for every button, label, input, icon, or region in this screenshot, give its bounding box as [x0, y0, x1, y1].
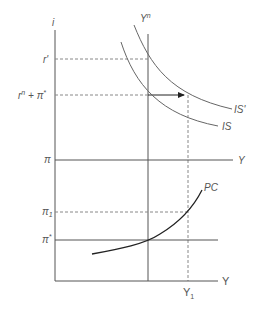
rn-pistar-label: rn + π*: [18, 89, 46, 101]
i-axis-label: i: [52, 17, 55, 28]
is-label: IS: [222, 121, 232, 132]
bottom-y-axis-label: Y: [222, 275, 230, 287]
is-pc-diagram: i Yn r' rn + π* IS' IS π Y π1 π* PC Y Y1: [0, 0, 261, 309]
y1-label: Y1: [183, 286, 194, 300]
yn-label: Yn: [140, 12, 151, 24]
is-prime-label: IS': [234, 104, 246, 115]
pi1-label: π1: [42, 206, 53, 218]
pi-label: π: [44, 154, 51, 165]
is-curve: [121, 42, 218, 126]
top-y-axis-label: Y: [238, 155, 246, 166]
pc-label: PC: [204, 182, 219, 193]
is-prime-curve: [134, 25, 232, 109]
r-prime-label: r': [43, 54, 49, 65]
pistar-label: π*: [42, 233, 52, 245]
pc-curve: [92, 190, 202, 254]
